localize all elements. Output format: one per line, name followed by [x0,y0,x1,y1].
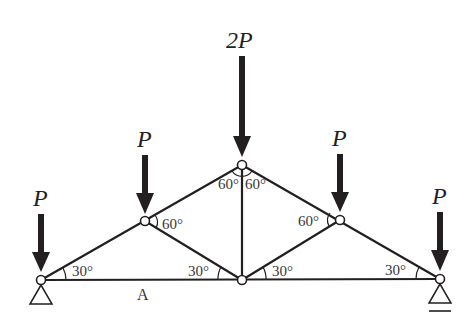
truss-nodes [37,161,445,285]
node-left-mid [141,217,150,226]
load-arrow-right-mid [331,154,349,212]
node-right-support [436,275,445,284]
angle-label-top-right: 60° [245,176,266,192]
truss-members [41,165,440,280]
angle-arc-bottom-right [263,267,266,280]
node-bottom-center [238,276,247,285]
load-arrow-left-support [32,214,50,272]
point-label-a: A [137,286,149,303]
angle-label-left-support: 30° [72,263,93,279]
angle-arc-right-support [416,267,419,279]
load-arrow-right-support [431,212,449,271]
load-label-right-mid: P [331,125,347,151]
angle-label-right-mid: 60° [298,213,319,229]
node-top [238,161,247,170]
load-label-left-support: P [32,185,48,211]
angle-label-left-mid: 60° [162,216,183,232]
load-label-top: 2P [226,27,253,53]
load-label-left-mid: P [136,126,152,152]
angle-arc-left-support [63,268,66,280]
node-right-mid [336,216,345,225]
load-arrow-left-mid [136,155,154,214]
angle-label-right-support: 30° [385,262,406,278]
truss-diagram: P P 2P P P 30° 60° 60° 60° 60° 30° 30° 3… [0,0,475,336]
angle-arc-bottom-left [218,267,221,280]
angle-label-bottom-center-left: 30° [188,263,209,279]
roller-support-right [429,284,451,303]
load-label-right-support: P [431,183,447,209]
pin-support-left [30,285,52,304]
supports [30,284,451,311]
angle-label-top-left: 60° [218,176,239,192]
node-left-support [37,276,46,285]
angle-label-bottom-center-right: 30° [272,263,293,279]
load-arrow-top [233,56,251,157]
